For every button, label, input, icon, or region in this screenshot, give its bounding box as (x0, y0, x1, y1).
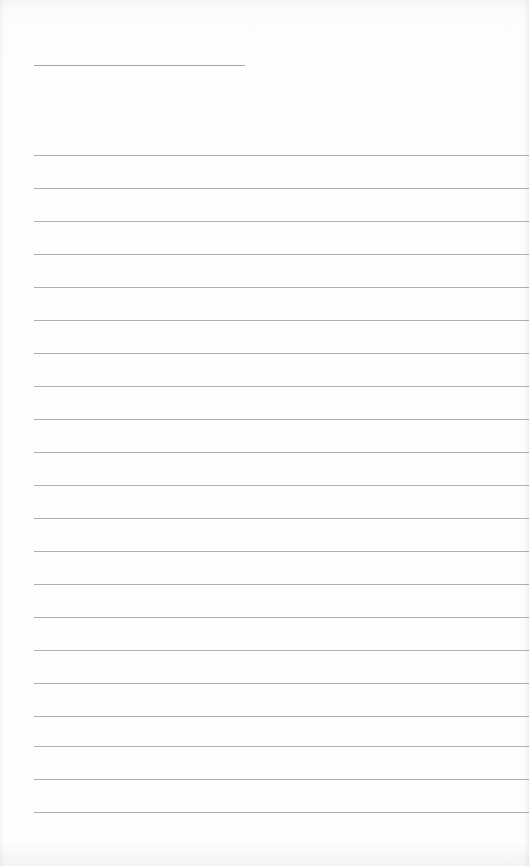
line-text (36, 232, 525, 254)
line-text (36, 529, 525, 551)
ruled-line (34, 584, 529, 585)
ruled-line (34, 221, 529, 222)
ruled-line (34, 188, 529, 189)
line-text (36, 595, 525, 617)
line-text (36, 430, 525, 452)
ruled-line (34, 320, 529, 321)
line-text (36, 199, 525, 221)
ruled-line (34, 353, 529, 354)
ruled-lines-container (0, 0, 529, 866)
line-text (36, 496, 525, 518)
ruled-line (34, 254, 529, 255)
ruled-line (34, 683, 529, 684)
line-text (36, 562, 525, 584)
line-text (36, 265, 525, 287)
ruled-line (34, 551, 529, 552)
ruled-line (34, 386, 529, 387)
ruled-line (34, 518, 529, 519)
ruled-line (34, 650, 529, 651)
ruled-line (34, 746, 529, 747)
ruled-line (34, 716, 529, 717)
line-text (36, 790, 525, 812)
ruled-line (34, 287, 529, 288)
ruled-line (34, 155, 529, 156)
line-text (36, 661, 525, 683)
line-text (36, 331, 525, 353)
line-text (36, 463, 525, 485)
ruled-line (34, 485, 529, 486)
line-text (36, 166, 525, 188)
ruled-line (34, 419, 529, 420)
line-text (36, 364, 525, 386)
ruled-line (34, 617, 529, 618)
line-text (36, 757, 525, 779)
line-text (36, 133, 525, 155)
line-text (36, 724, 525, 746)
ruled-line (34, 812, 529, 813)
line-text (36, 298, 525, 320)
line-text (36, 397, 525, 419)
line-text (36, 628, 525, 650)
line-text (36, 694, 525, 716)
ruled-line (34, 452, 529, 453)
ruled-line (34, 779, 529, 780)
lined-paper-page (0, 0, 529, 866)
